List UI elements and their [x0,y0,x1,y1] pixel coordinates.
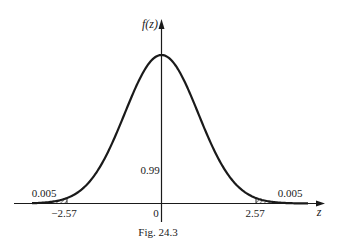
center-area-label: 0.99 [140,164,160,176]
normal-distribution-figure: f(z) z 0.005 0.99 0.005 −2.57 0 2.57 Fig… [0,0,337,246]
y-axis-arrow-icon [159,19,165,29]
tick-label-pos: 2.57 [245,207,265,219]
density-curve [32,55,308,203]
figure-caption: Fig. 24.3 [138,226,178,238]
right-tail-area-label: 0.005 [278,187,303,199]
x-axis-label: z [316,205,322,219]
tick-label-zero: 0 [153,207,159,219]
tick-label-neg: −2.57 [51,207,77,219]
left-tail-area-label: 0.005 [32,187,57,199]
y-axis-label: f(z) [142,17,158,31]
